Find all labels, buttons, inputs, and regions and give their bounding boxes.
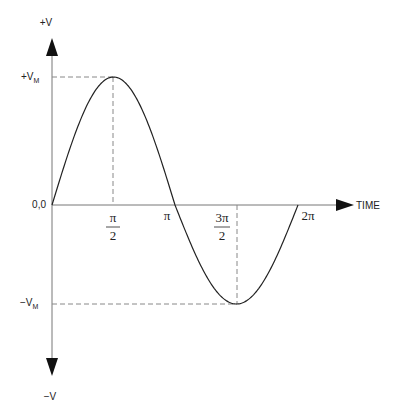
- y-axis-down-arrow-icon: [46, 358, 58, 376]
- tick-pi: π: [164, 208, 171, 223]
- tick-pi-over-2-num: π: [110, 210, 117, 225]
- sine-wave-diagram: +V −V +VM −VM 0,0 TIME π 2 π 3π 2 2π: [0, 0, 401, 414]
- x-axis-arrow-icon: [336, 199, 354, 211]
- y-axis-positive-label: +V: [40, 17, 53, 28]
- origin-label: 0,0: [32, 199, 46, 210]
- y-axis-up-arrow-icon: [46, 38, 58, 56]
- tick-3pi-over-2-den: 2: [219, 228, 226, 243]
- peak-label: +VM: [21, 71, 40, 84]
- sine-curve: [52, 77, 298, 304]
- y-axis-negative-label: −V: [44, 391, 57, 402]
- trough-label: −VM: [20, 297, 39, 310]
- guide-lines: [52, 77, 237, 304]
- x-axis-label: TIME: [356, 200, 380, 211]
- tick-3pi-over-2-num: 3π: [215, 210, 229, 225]
- tick-2pi: 2π: [301, 208, 315, 223]
- tick-pi-over-2-den: 2: [110, 228, 117, 243]
